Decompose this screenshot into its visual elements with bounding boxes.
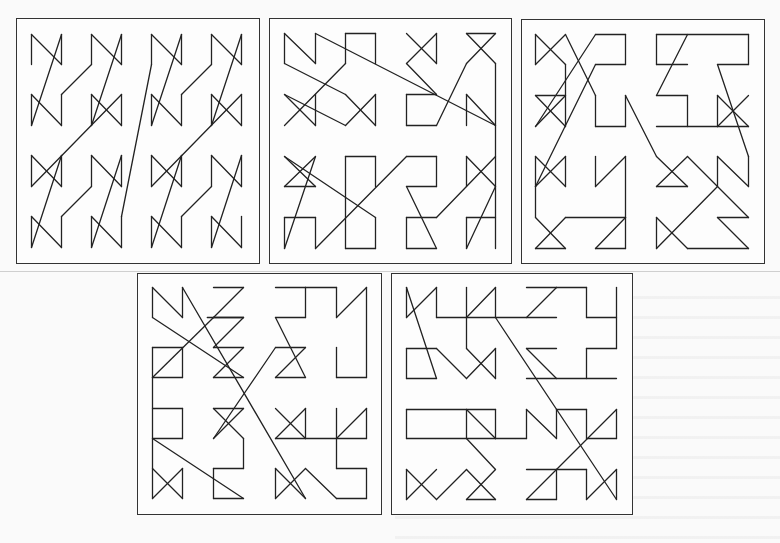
curve-panel-4 bbox=[137, 273, 382, 515]
curve-segment bbox=[214, 348, 276, 439]
curve-segment bbox=[596, 218, 626, 249]
curve-segment bbox=[92, 156, 122, 248]
curve-segment bbox=[92, 35, 122, 126]
curve-segment bbox=[316, 157, 407, 249]
curve-segment bbox=[467, 95, 496, 126]
curve-segment bbox=[285, 34, 316, 64]
curve-panel-1-z-order bbox=[16, 18, 260, 264]
curve-path bbox=[522, 20, 766, 265]
curve-segment bbox=[212, 156, 242, 248]
curve-segment bbox=[657, 187, 718, 249]
curve-segment bbox=[437, 64, 467, 126]
curve-segment bbox=[62, 65, 92, 95]
curve-segment bbox=[122, 65, 152, 217]
curve-panel-3 bbox=[521, 19, 765, 264]
divider-line bbox=[0, 271, 780, 272]
curve-path bbox=[270, 19, 513, 265]
curve-segment bbox=[407, 288, 437, 379]
curve-segment bbox=[32, 35, 62, 126]
curve-segment bbox=[214, 288, 244, 318]
curve-panel-2 bbox=[269, 18, 512, 264]
curve-segment bbox=[62, 187, 92, 217]
curve-path bbox=[392, 274, 634, 516]
curve-segment bbox=[587, 470, 617, 500]
curve-segment bbox=[152, 156, 182, 248]
curve-path bbox=[17, 19, 261, 265]
curve-segment bbox=[337, 409, 367, 439]
curve-segment bbox=[527, 410, 557, 439]
curve-segment bbox=[32, 156, 62, 248]
curve-panel-5 bbox=[391, 273, 633, 515]
curve-segment bbox=[626, 96, 657, 157]
curve-segment bbox=[407, 64, 437, 95]
curve-segment bbox=[182, 187, 212, 217]
curve-segment bbox=[596, 157, 626, 187]
curve-segment bbox=[718, 218, 749, 249]
curve-path bbox=[138, 274, 383, 516]
curve-segment bbox=[182, 65, 212, 95]
curve-segment bbox=[285, 157, 316, 249]
curve-segment bbox=[527, 288, 557, 318]
curve-segment bbox=[214, 348, 244, 378]
curve-segment bbox=[337, 288, 367, 318]
curve-segment bbox=[467, 288, 496, 318]
curve-segment bbox=[306, 469, 337, 499]
curve-segment bbox=[527, 349, 557, 379]
curve-segment bbox=[152, 35, 182, 126]
curve-segment bbox=[285, 64, 346, 95]
curve-segment bbox=[437, 349, 467, 379]
curve-segment bbox=[467, 410, 496, 439]
curve-segment bbox=[437, 470, 467, 500]
curve-segment bbox=[566, 35, 596, 96]
curve-segment bbox=[718, 157, 749, 187]
curve-segment bbox=[316, 34, 496, 126]
curve-segment bbox=[153, 288, 183, 318]
curve-segment bbox=[212, 35, 242, 126]
curve-segment bbox=[214, 318, 244, 348]
curve-segment bbox=[467, 439, 496, 470]
curve-segment bbox=[276, 348, 306, 378]
